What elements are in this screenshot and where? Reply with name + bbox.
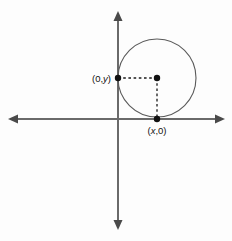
x-axis-arrow-left-icon	[8, 115, 18, 124]
x-axis-arrow-right-icon	[215, 115, 225, 124]
y-axis-arrow-up-icon	[114, 11, 123, 21]
coordinate-plane-svg: (0,y) (x,0)	[0, 0, 232, 241]
y-axis	[114, 11, 123, 230]
geometry-figure: (0,y) (x,0)	[0, 0, 232, 241]
label-x-intercept: (x,0)	[147, 125, 166, 136]
point-x-intercept	[154, 116, 160, 122]
y-axis-arrow-down-icon	[114, 220, 123, 230]
point-circle-center	[154, 75, 160, 81]
x-axis	[8, 115, 225, 124]
label-y-intercept: (0,y)	[92, 73, 111, 84]
point-y-intercept	[115, 75, 121, 81]
